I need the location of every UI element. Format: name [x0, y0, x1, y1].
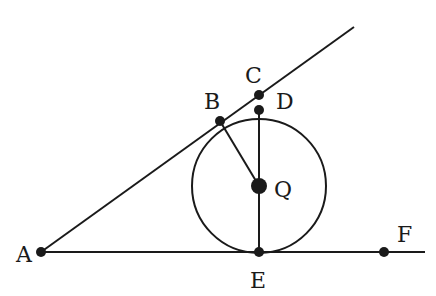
label-d: D: [276, 89, 294, 114]
label-c: C: [245, 63, 262, 88]
label-a: A: [15, 242, 33, 267]
point-f: [379, 247, 389, 257]
point-b: [215, 116, 225, 126]
point-c: [254, 90, 264, 100]
geometry-diagram: A B C D Q E F: [0, 0, 436, 296]
point-q: [251, 178, 267, 194]
segment-b-q: [220, 121, 259, 186]
label-f: F: [397, 222, 412, 247]
label-q: Q: [274, 177, 292, 202]
point-a: [36, 247, 46, 257]
point-e: [254, 247, 264, 257]
point-d: [254, 105, 264, 115]
label-b: B: [204, 89, 220, 114]
label-e: E: [250, 268, 266, 293]
